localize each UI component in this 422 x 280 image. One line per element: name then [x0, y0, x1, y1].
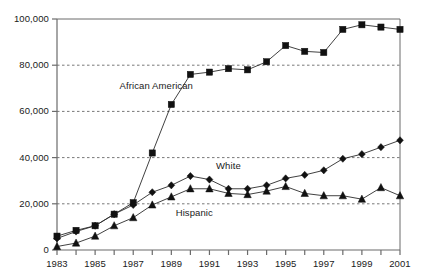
- data-point-triangle: [187, 185, 194, 192]
- data-point-square: [206, 69, 212, 75]
- series-label-hispanic: Hispanic: [176, 207, 213, 218]
- data-point-triangle: [149, 201, 156, 208]
- y-axis-tick-label: 40,000: [19, 152, 49, 163]
- y-axis-tick-label: 100,000: [14, 13, 49, 24]
- data-point-triangle: [168, 193, 175, 200]
- data-point-square: [283, 42, 289, 48]
- data-point-square: [168, 101, 174, 107]
- data-point-diamond: [378, 144, 385, 151]
- data-point-triangle: [396, 192, 403, 199]
- x-axis-tick-label: 2001: [376, 258, 422, 269]
- data-point-square: [244, 67, 250, 73]
- y-axis-tick-label: 0: [44, 244, 49, 255]
- data-point-square: [302, 48, 308, 54]
- series-line: [57, 25, 400, 236]
- data-point-square: [378, 24, 384, 30]
- data-point-triangle: [91, 232, 98, 239]
- data-point-square: [264, 59, 270, 65]
- data-point-triangle: [339, 192, 346, 199]
- data-point-diamond: [282, 175, 289, 182]
- data-point-diamond: [358, 151, 365, 158]
- data-point-triangle: [282, 182, 289, 189]
- data-point-diamond: [320, 167, 327, 174]
- data-point-diamond: [206, 176, 213, 183]
- series-label-african-american: African American: [120, 80, 193, 91]
- data-point-diamond: [301, 171, 308, 178]
- series-african-american: [54, 22, 403, 240]
- data-point-square: [149, 150, 155, 156]
- data-point-square: [225, 66, 231, 72]
- series-hispanic: [53, 182, 403, 249]
- data-point-diamond: [339, 155, 346, 162]
- data-point-square: [187, 71, 193, 77]
- data-point-square: [359, 22, 365, 28]
- data-point-triangle: [130, 214, 137, 221]
- data-point-square: [340, 26, 346, 32]
- series-label-white: White: [216, 160, 241, 171]
- plot-svg: [0, 0, 422, 280]
- data-point-triangle: [377, 184, 384, 191]
- data-point-diamond: [168, 182, 175, 189]
- data-point-square: [321, 49, 327, 55]
- data-point-diamond: [187, 172, 194, 179]
- data-point-square: [397, 26, 403, 32]
- line-chart: 020,00040,00060,00080,000100,00019831985…: [0, 0, 422, 280]
- data-point-diamond: [149, 189, 156, 196]
- y-axis-tick-label: 80,000: [19, 59, 49, 70]
- y-axis-tick-label: 20,000: [19, 198, 49, 209]
- y-axis-tick-label: 60,000: [19, 105, 49, 116]
- data-point-triangle: [110, 222, 117, 229]
- data-point-triangle: [206, 185, 213, 192]
- data-point-diamond: [397, 137, 404, 144]
